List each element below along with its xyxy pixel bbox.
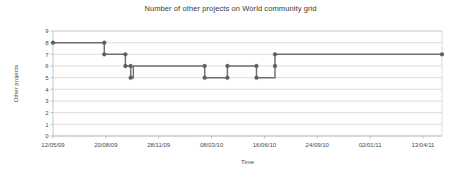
x-tick-label-0: 12/05/09 bbox=[41, 142, 65, 148]
y-tick-label-3: 3 bbox=[45, 98, 49, 104]
y-tick-label-7: 7 bbox=[45, 52, 49, 58]
x-axis-ticks: 12/05/0920/08/0928/11/0908/03/1016/06/10… bbox=[41, 136, 435, 148]
data-point-0-12 bbox=[255, 64, 259, 68]
x-tick-label-7: 13/04/11 bbox=[412, 142, 436, 148]
data-point-0-14 bbox=[273, 52, 277, 56]
x-tick-label-3: 08/03/10 bbox=[200, 142, 224, 148]
chart-figure: Number of other projects on World commun… bbox=[0, 0, 461, 180]
data-point-0-15 bbox=[440, 52, 444, 56]
data-series bbox=[53, 43, 442, 78]
x-tick-label-2: 28/11/09 bbox=[147, 142, 171, 148]
series-line-0 bbox=[53, 43, 442, 78]
y-tick-label-8: 8 bbox=[45, 40, 49, 46]
data-point-0-9 bbox=[226, 64, 230, 68]
y-tick-label-1: 1 bbox=[45, 122, 49, 128]
data-point-0-1 bbox=[102, 41, 106, 45]
y-axis-ticks: 0123456789 bbox=[45, 28, 53, 139]
gridlines bbox=[53, 31, 442, 136]
x-tick-label-1: 20/08/09 bbox=[94, 142, 118, 148]
data-point-0-2 bbox=[102, 52, 106, 56]
data-point-0-3 bbox=[124, 52, 128, 56]
data-point-0-0 bbox=[51, 41, 55, 45]
data-point-0-4 bbox=[124, 64, 128, 68]
x-tick-label-6: 02/01/11 bbox=[359, 142, 383, 148]
data-point-0-10 bbox=[226, 76, 230, 80]
y-tick-label-0: 0 bbox=[45, 133, 49, 139]
y-tick-label-5: 5 bbox=[45, 75, 49, 81]
chart-plot-area: 0123456789 12/05/0920/08/0928/11/0908/03… bbox=[0, 0, 461, 180]
data-markers bbox=[51, 41, 444, 80]
data-point-0-8 bbox=[203, 64, 207, 68]
y-tick-label-9: 9 bbox=[45, 28, 49, 34]
data-point-0-7 bbox=[203, 76, 207, 80]
data-point-0-13 bbox=[273, 64, 277, 68]
data-point-0-6 bbox=[129, 76, 133, 80]
data-point-0-11 bbox=[255, 76, 259, 80]
y-axis-title: Other projects bbox=[13, 65, 19, 103]
y-tick-label-6: 6 bbox=[45, 63, 49, 69]
data-point-0-5 bbox=[129, 64, 133, 68]
y-tick-label-2: 2 bbox=[45, 110, 49, 116]
x-axis-title: Time bbox=[241, 159, 255, 165]
plot-frame bbox=[53, 31, 442, 136]
y-tick-label-4: 4 bbox=[45, 87, 49, 93]
x-tick-label-4: 16/06/10 bbox=[253, 142, 277, 148]
x-tick-label-5: 24/09/10 bbox=[306, 142, 330, 148]
